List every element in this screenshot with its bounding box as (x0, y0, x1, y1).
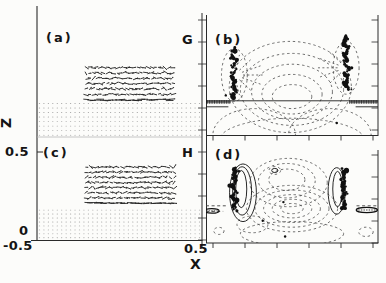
x-axis-tick-left: -0.5 (3, 239, 33, 252)
z-axis-label: Z (0, 118, 13, 128)
x-axis-tick-right: 0.5 (184, 242, 208, 255)
panel-c-corner-label: H (182, 146, 193, 159)
figure: (a) G (b) (c) H (d) Z 0.5 0 -0.5 0.5 X (0, 0, 386, 283)
panel-c-label: (c) (43, 146, 69, 159)
panel-d-label: (d) (215, 148, 242, 161)
x-axis-label: X (190, 257, 201, 271)
panel-a-label: (a) (46, 31, 73, 44)
panel-a-corner-label: G (182, 33, 193, 46)
z-axis-tick-top: 0.5 (5, 145, 29, 158)
z-axis-tick-bottom: 0 (19, 224, 28, 237)
panel-b-label: (b) (215, 33, 242, 46)
